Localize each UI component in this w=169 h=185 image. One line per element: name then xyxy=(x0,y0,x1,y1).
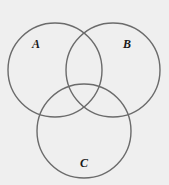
set-b-circle xyxy=(66,23,160,117)
set-a-label: A xyxy=(31,37,40,51)
set-c-label: C xyxy=(80,156,89,170)
set-a-circle xyxy=(8,23,102,117)
venn-diagram: A B C xyxy=(0,0,169,185)
set-b-label: B xyxy=(122,37,131,51)
